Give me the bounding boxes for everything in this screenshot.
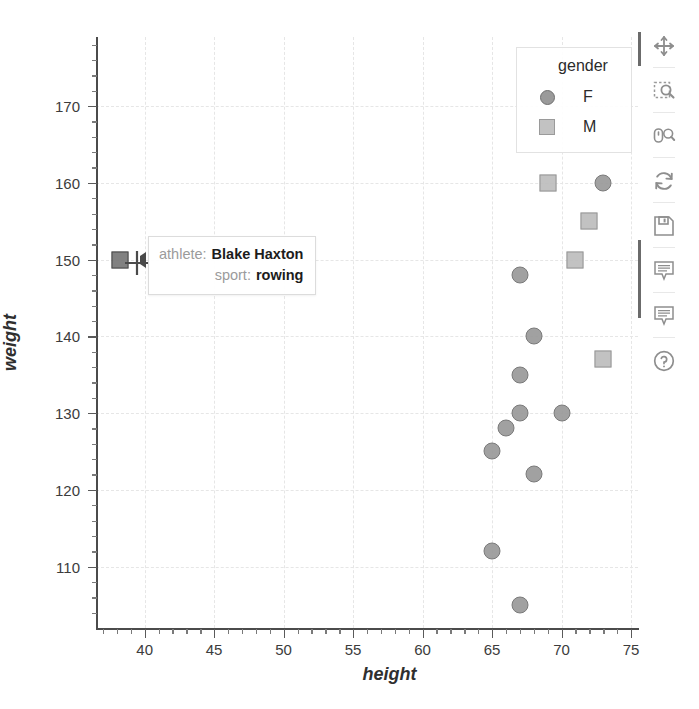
save-tool-icon[interactable] bbox=[648, 210, 680, 242]
y-axis-line bbox=[96, 37, 98, 628]
hover-tooltip: athlete: Blake Haxton sport: rowing bbox=[148, 236, 316, 295]
data-point-f[interactable] bbox=[553, 405, 570, 422]
y-tick-minor bbox=[92, 75, 97, 76]
x-tick-label: 55 bbox=[345, 641, 362, 658]
x-tick-major bbox=[631, 629, 632, 638]
data-point-f[interactable] bbox=[484, 543, 501, 560]
legend-label-f: F bbox=[583, 88, 593, 106]
data-point-m[interactable] bbox=[567, 251, 584, 268]
x-tick-label: 60 bbox=[414, 641, 431, 658]
help-tool-icon[interactable] bbox=[648, 345, 680, 377]
x-tick-minor bbox=[534, 629, 535, 634]
y-tick-minor bbox=[92, 290, 97, 291]
toolbar-active-indicator-2 bbox=[638, 240, 641, 318]
toolbar-active-indicator bbox=[638, 32, 641, 66]
x-axis-title: height bbox=[0, 664, 699, 685]
x-tick-major bbox=[214, 629, 215, 638]
toolbar-divider bbox=[653, 202, 675, 203]
data-point-f[interactable] bbox=[595, 174, 612, 191]
x-tick-minor bbox=[159, 629, 160, 634]
pan-tool-icon[interactable] bbox=[648, 30, 680, 62]
wheel-zoom-tool-icon[interactable] bbox=[648, 120, 680, 152]
legend-item-f[interactable]: F bbox=[527, 82, 621, 112]
y-tick-label: 130 bbox=[55, 405, 80, 422]
x-tick-minor bbox=[506, 629, 507, 634]
y-tick-minor bbox=[92, 474, 97, 475]
data-point-f[interactable] bbox=[511, 266, 528, 283]
data-point-f[interactable] bbox=[525, 328, 542, 345]
x-tick-minor bbox=[311, 629, 312, 634]
data-point-f[interactable] bbox=[511, 405, 528, 422]
x-tick-minor bbox=[270, 629, 271, 634]
data-point-m[interactable] bbox=[111, 251, 128, 268]
data-point-m[interactable] bbox=[581, 213, 598, 230]
x-tick-minor bbox=[325, 629, 326, 634]
x-tick-minor bbox=[256, 629, 257, 634]
y-tick-minor bbox=[92, 551, 97, 552]
x-tick-minor bbox=[575, 629, 576, 634]
y-tick-minor bbox=[92, 613, 97, 614]
data-point-f[interactable] bbox=[511, 596, 528, 613]
gridline-vertical bbox=[214, 37, 215, 628]
y-tick-major bbox=[88, 567, 97, 568]
x-tick-label: 45 bbox=[206, 641, 223, 658]
x-tick-minor bbox=[242, 629, 243, 634]
data-point-f[interactable] bbox=[525, 466, 542, 483]
legend-title: gender bbox=[527, 57, 621, 75]
y-tick-major bbox=[88, 336, 97, 337]
x-tick-minor bbox=[520, 629, 521, 634]
x-tick-minor bbox=[589, 629, 590, 634]
y-tick-minor bbox=[92, 306, 97, 307]
x-tick-major bbox=[284, 629, 285, 638]
x-tick-minor bbox=[298, 629, 299, 634]
y-tick-major bbox=[88, 260, 97, 261]
data-point-f[interactable] bbox=[497, 420, 514, 437]
y-tick-minor bbox=[92, 536, 97, 537]
y-tick-label: 150 bbox=[55, 251, 80, 268]
data-point-m[interactable] bbox=[539, 174, 556, 191]
y-tick-minor bbox=[92, 597, 97, 598]
y-tick-minor bbox=[92, 275, 97, 276]
y-tick-minor bbox=[92, 444, 97, 445]
x-tick-minor bbox=[450, 629, 451, 634]
y-tick-minor bbox=[92, 367, 97, 368]
legend-item-m[interactable]: M bbox=[527, 112, 621, 142]
box-zoom-tool-icon[interactable] bbox=[648, 75, 680, 107]
y-tick-minor bbox=[92, 459, 97, 460]
plot-toolbar bbox=[644, 30, 684, 389]
toolbar-divider bbox=[653, 247, 675, 248]
hover-tool-2-icon[interactable] bbox=[648, 300, 680, 332]
y-tick-minor bbox=[92, 167, 97, 168]
toolbar-divider bbox=[653, 157, 675, 158]
y-tick-minor bbox=[92, 352, 97, 353]
data-point-f[interactable] bbox=[484, 443, 501, 460]
tooltip-row: athlete: Blake Haxton bbox=[159, 244, 303, 265]
data-point-f[interactable] bbox=[511, 366, 528, 383]
toolbar-divider bbox=[653, 337, 675, 338]
y-tick-label: 140 bbox=[55, 328, 80, 345]
x-tick-minor bbox=[395, 629, 396, 634]
toolbar-divider bbox=[653, 292, 675, 293]
reset-tool-icon[interactable] bbox=[648, 165, 680, 197]
y-tick-minor bbox=[92, 45, 97, 46]
tooltip-value-sport: rowing bbox=[256, 265, 304, 286]
y-tick-minor bbox=[92, 91, 97, 92]
legend[interactable]: gender F M bbox=[516, 47, 632, 153]
y-tick-minor bbox=[92, 428, 97, 429]
y-tick-minor bbox=[92, 321, 97, 322]
y-tick-minor bbox=[92, 198, 97, 199]
data-point-m[interactable] bbox=[595, 351, 612, 368]
y-tick-minor bbox=[92, 121, 97, 122]
x-tick-minor bbox=[103, 629, 104, 634]
x-tick-minor bbox=[478, 629, 479, 634]
gridline-horizontal bbox=[96, 490, 638, 491]
gridline-vertical bbox=[353, 37, 354, 628]
y-tick-minor bbox=[92, 244, 97, 245]
y-tick-minor bbox=[92, 398, 97, 399]
gridline-vertical bbox=[145, 37, 146, 628]
y-axis-title: weight bbox=[0, 314, 21, 371]
x-tick-minor bbox=[228, 629, 229, 634]
tooltip-row: sport: rowing bbox=[159, 265, 303, 286]
square-marker-icon bbox=[539, 119, 555, 135]
hover-tool-icon[interactable] bbox=[648, 255, 680, 287]
